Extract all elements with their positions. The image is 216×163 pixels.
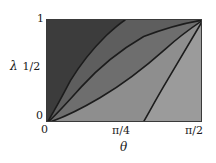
x-tick-label-pi-over-4: π/4 bbox=[112, 125, 130, 136]
y-tick-label-0: 0 bbox=[36, 110, 43, 121]
x-tick-label-0: 0 bbox=[41, 124, 48, 135]
contour-plot-figure: λ1/2 1 0 0 π/4 π/2 θ bbox=[0, 0, 216, 163]
y-axis-title: λ bbox=[10, 59, 18, 73]
x-tick-label-pi-over-2: π/2 bbox=[185, 125, 203, 136]
plot-svg bbox=[47, 20, 202, 122]
y-tick-label-1: 1 bbox=[37, 13, 44, 24]
band-fills bbox=[47, 20, 202, 122]
y-axis-title-group: λ1/2 bbox=[10, 60, 40, 72]
plot-area bbox=[46, 19, 202, 122]
y-tick-label-half: 1/2 bbox=[23, 61, 41, 72]
x-axis-title: θ bbox=[120, 141, 127, 153]
